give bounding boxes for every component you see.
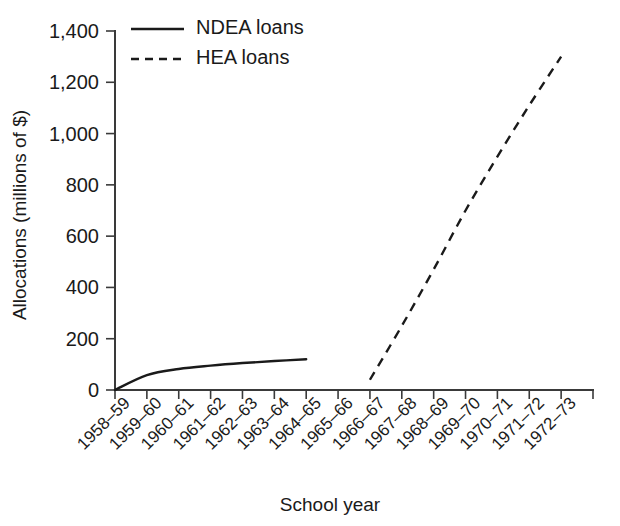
series-line-ndea-loans: [115, 359, 306, 390]
series-group: [115, 57, 561, 390]
chart-container: 02004006008001,0001,2001,400 1958–591959…: [0, 0, 620, 526]
line-chart: 02004006008001,0001,2001,400 1958–591959…: [0, 0, 620, 526]
y-tick-label: 1,000: [49, 123, 99, 145]
y-tick-label: 600: [66, 225, 99, 247]
chart-legend: NDEA loans HEA loans: [131, 16, 304, 68]
y-tick-label: 200: [66, 328, 99, 350]
series-line-hea-loans: [370, 57, 561, 380]
x-axis-title: School year: [280, 494, 381, 515]
y-axis-tick-labels: 02004006008001,0001,2001,400: [49, 20, 99, 401]
y-axis-ticks: [106, 31, 115, 390]
legend-label-ndea-loans: NDEA loans: [196, 16, 304, 38]
y-tick-label: 400: [66, 276, 99, 298]
y-tick-label: 800: [66, 174, 99, 196]
y-tick-label: 1,200: [49, 71, 99, 93]
y-tick-label: 0: [88, 379, 99, 401]
y-tick-label: 1,400: [49, 20, 99, 42]
legend-label-hea-loans: HEA loans: [196, 46, 289, 68]
x-axis-tick-labels: 1958–591959–601960–611961–621962–631963–…: [74, 393, 580, 453]
y-axis-title: Allocations (millions of $): [9, 110, 30, 320]
